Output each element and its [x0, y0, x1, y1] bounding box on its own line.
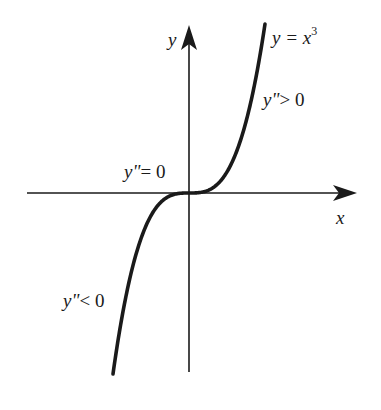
graph-canvas: [0, 0, 381, 410]
cubic-graph-figure: y x y = x3 y"> 0 y"= 0 y"< 0: [0, 0, 381, 410]
curve-equation-text: y = x: [272, 27, 311, 48]
concave-down-rel: < 0: [79, 290, 104, 311]
concave-up-rel: > 0: [279, 89, 304, 110]
y-axis-label: y: [168, 30, 176, 49]
curve-equation-exponent: 3: [311, 24, 317, 38]
inflection-var: y": [124, 161, 140, 182]
x-axis-label: x: [336, 208, 344, 227]
concave-down-var: y": [63, 290, 79, 311]
concave-up-var: y": [263, 89, 279, 110]
inflection-rel: = 0: [140, 161, 165, 182]
concave-up-label: y"> 0: [263, 90, 304, 109]
concave-down-label: y"< 0: [63, 291, 104, 310]
curve-equation-label: y = x3: [272, 28, 317, 47]
inflection-point-label: y"= 0: [124, 162, 165, 181]
